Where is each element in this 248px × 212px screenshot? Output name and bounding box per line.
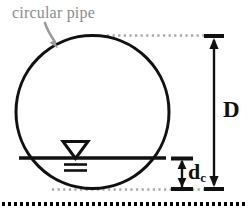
diameter-arrowhead-down: [209, 176, 218, 187]
callout-arrow-icon: [45, 23, 55, 42]
critical-depth-label: dc: [188, 161, 206, 183]
critical-depth-label-subscript: c: [200, 170, 206, 185]
critical-depth-label-base: d: [188, 159, 200, 184]
critical-depth-arrowhead-up: [178, 160, 187, 170]
critical-depth-arrowhead-down: [178, 178, 187, 188]
callout-label-circular-pipe: circular pipe: [12, 5, 95, 21]
pipe-circle: [16, 36, 169, 189]
diameter-arrowhead-up: [209, 38, 218, 49]
pipe-cross-section-figure: circular pipe D dc: [0, 0, 248, 212]
diagram-canvas: [0, 0, 248, 212]
diameter-label: D: [223, 98, 240, 121]
water-surface-triangle-icon: [63, 142, 88, 159]
